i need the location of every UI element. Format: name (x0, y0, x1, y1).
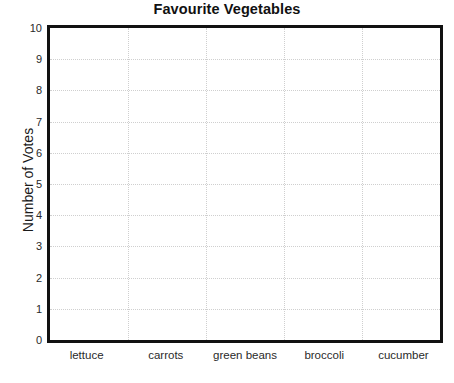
bars-layer (50, 28, 440, 340)
bar-chart: Favourite Vegetables Number of Votes 012… (0, 0, 454, 383)
bar-slot (50, 28, 128, 340)
x-tick-label: broccoli (285, 348, 364, 368)
y-tick-label: 8 (2, 85, 42, 96)
y-tick-label: 6 (2, 148, 42, 159)
y-tick-label: 5 (2, 179, 42, 190)
y-tick-label: 2 (2, 273, 42, 284)
x-tick-label: cucumber (364, 348, 443, 368)
y-axis-tick-labels: 012345678910 (0, 25, 42, 343)
x-axis-tick-labels: lettucecarrotsgreen beansbroccolicucumbe… (47, 348, 443, 368)
bar-slot (284, 28, 362, 340)
y-tick-label: 0 (2, 335, 42, 346)
y-tick-label: 7 (2, 117, 42, 128)
x-tick-label: green beans (205, 348, 284, 368)
y-tick-label: 1 (2, 304, 42, 315)
chart-title: Favourite Vegetables (0, 1, 454, 18)
plot-inner (50, 28, 440, 340)
plot-area (47, 25, 443, 343)
x-tick-label: carrots (126, 348, 205, 368)
bar-slot (128, 28, 206, 340)
bar-slot (362, 28, 440, 340)
y-tick-label: 10 (2, 23, 42, 34)
y-tick-label: 9 (2, 54, 42, 65)
y-tick-label: 4 (2, 210, 42, 221)
x-tick-label: lettuce (47, 348, 126, 368)
bar-slot (206, 28, 284, 340)
y-tick-label: 3 (2, 241, 42, 252)
